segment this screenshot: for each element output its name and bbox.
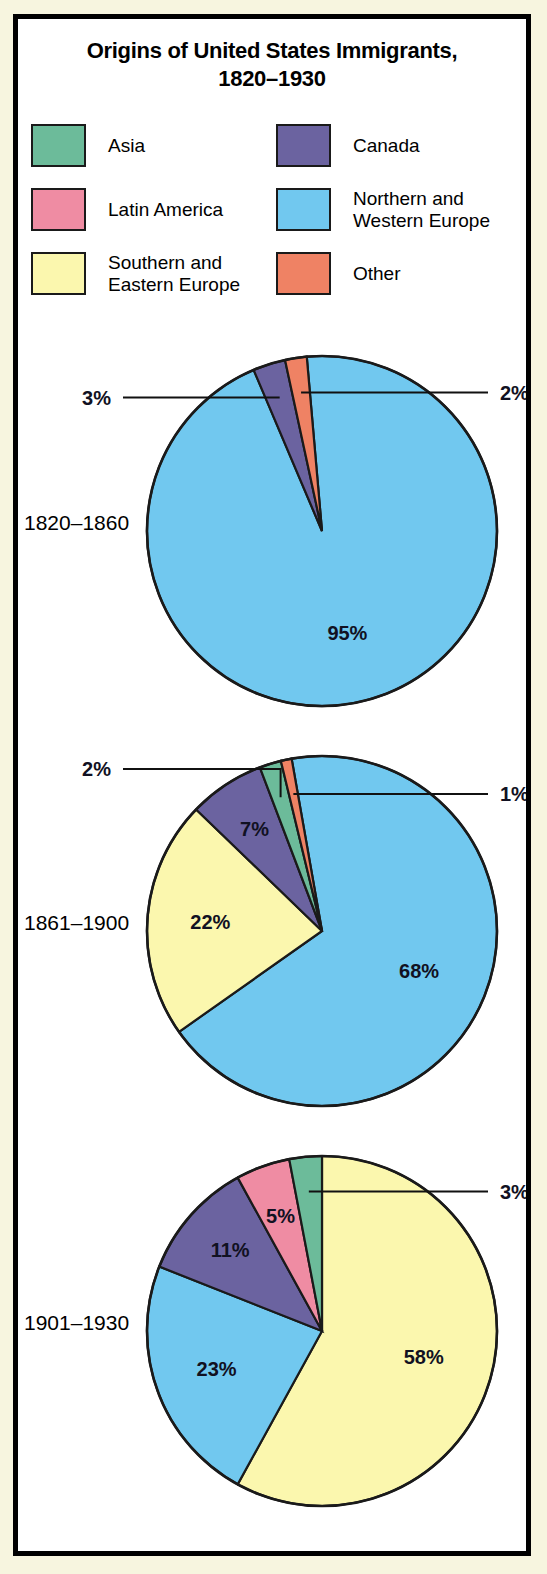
slice-percent-label: 23%	[197, 1358, 237, 1380]
legend-label-canada: Canada	[353, 135, 420, 156]
legend-label-northern-western-europe: Northern and Western Europe	[353, 188, 490, 231]
legend-swatch-latin-america	[31, 188, 86, 231]
title-line-1: Origins of United States Immigrants,	[18, 37, 526, 65]
legend-swatch-northern-western-europe	[276, 188, 331, 231]
legend-swatch-other	[276, 252, 331, 295]
slice-percent-callout-label: 3%	[82, 387, 111, 409]
slice-percent-callout-label: 3%	[500, 1181, 529, 1203]
slice-percent-label: 22%	[190, 911, 230, 933]
legend-item-asia: Asia	[31, 124, 145, 167]
legend-item-latin-america: Latin America	[31, 188, 223, 231]
chart-frame: Origins of United States Immigrants, 182…	[13, 14, 531, 1556]
slice-percent-callout-label: 1%	[500, 783, 529, 805]
legend-swatch-asia	[31, 124, 86, 167]
legend-item-other: Other	[276, 252, 401, 295]
period-label-1861-1900: 1861–1900	[24, 911, 129, 935]
slice-percent-label: 68%	[399, 960, 439, 982]
period-label-1901-1930: 1901–1930	[24, 1311, 129, 1335]
legend-swatch-canada	[276, 124, 331, 167]
legend-label-other: Other	[353, 263, 401, 284]
title-line-2: 1820–1930	[18, 65, 526, 93]
legend-swatch-southern-eastern-europe	[31, 252, 86, 295]
slice-percent-label: 7%	[240, 818, 269, 840]
slice-percent-label: 11%	[211, 1239, 250, 1261]
legend-item-canada: Canada	[276, 124, 420, 167]
slice-percent-label: 95%	[327, 622, 367, 644]
pie-block-1861-1900: 1861–1900 68%22%7%2%1%	[18, 719, 531, 1119]
slice-percent-label: 58%	[404, 1346, 444, 1368]
legend-label-southern-eastern-europe: Southern and Eastern Europe	[108, 252, 240, 295]
legend: Asia Latin America Southern and Eastern …	[18, 114, 526, 314]
legend-item-northern-western-europe: Northern and Western Europe	[276, 188, 490, 231]
slice-percent-callout-label: 2%	[82, 758, 111, 780]
slice-percent-callout-label: 2%	[500, 382, 529, 404]
pie-block-1901-1930: 1901–1930 58%23%11%5%3%	[18, 1119, 531, 1519]
legend-label-asia: Asia	[108, 135, 145, 156]
slice-percent-label: 5%	[266, 1205, 295, 1227]
pie-block-1820-1860: 1820–1860 95%3%2%	[18, 319, 531, 719]
period-label-1820-1860: 1820–1860	[24, 511, 129, 535]
legend-item-southern-eastern-europe: Southern and Eastern Europe	[31, 252, 240, 295]
legend-label-latin-america: Latin America	[108, 199, 223, 220]
page-title: Origins of United States Immigrants, 182…	[18, 37, 526, 92]
